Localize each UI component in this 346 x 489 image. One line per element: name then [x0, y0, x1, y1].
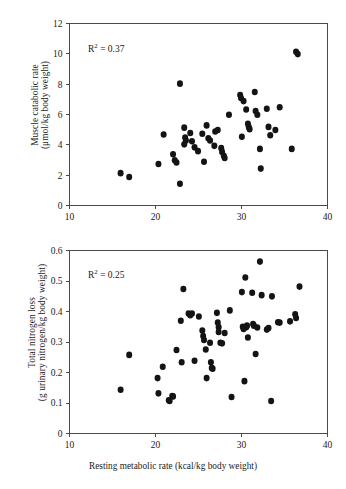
x-tick-label: 10 [65, 212, 75, 222]
data-point [277, 319, 283, 326]
plot-area-top: 02468101210203040 [0, 0, 346, 240]
data-point [214, 310, 220, 317]
data-point [181, 141, 187, 148]
y-tick-label: 0.1 [51, 398, 63, 408]
data-point [174, 347, 180, 354]
y-axis-label-top: Muscle catabolic rate (μmol/kg body weig… [30, 20, 50, 190]
data-point [174, 159, 180, 166]
data-point [180, 286, 186, 293]
panel-total-nitrogen-loss: 00.10.20.30.40.50.610203040 R2 = 0.25 To… [0, 240, 346, 489]
data-point [203, 346, 209, 353]
data-point [295, 51, 301, 58]
y-tick-label: 4 [58, 140, 63, 150]
x-tick-label: 10 [65, 440, 75, 450]
x-tick-label: 30 [237, 440, 247, 450]
data-point [229, 394, 235, 401]
y-tick-label: 2 [58, 171, 63, 181]
data-point [222, 330, 228, 337]
data-point [177, 80, 183, 87]
data-point [187, 130, 193, 137]
y-axis-label-top-line2: (μmol/kg body weight) [40, 20, 50, 190]
data-point [259, 292, 265, 299]
data-point [254, 111, 260, 118]
data-point [266, 325, 272, 332]
data-point [241, 98, 247, 105]
data-point [201, 337, 207, 344]
data-point [266, 124, 272, 131]
data-point [249, 289, 255, 296]
data-point [208, 359, 214, 366]
data-point [264, 105, 270, 112]
data-point [253, 351, 259, 358]
y-tick-label: 0.6 [51, 246, 63, 256]
data-point [210, 365, 216, 372]
y-tick-label: 0 [58, 429, 63, 439]
plot-area-bottom: 00.10.20.30.40.50.610203040 [0, 240, 346, 489]
data-point [192, 357, 198, 364]
data-point [155, 375, 161, 382]
data-point [118, 170, 124, 177]
data-point [247, 126, 253, 133]
data-point [244, 322, 250, 329]
y-tick-label: 0.4 [51, 307, 63, 317]
x-tick-label: 20 [151, 212, 161, 222]
data-point [257, 146, 263, 153]
data-point [155, 390, 161, 397]
data-point [287, 318, 293, 325]
data-point [216, 329, 222, 336]
data-point [118, 386, 124, 393]
data-point [207, 339, 213, 346]
figure-scatter-pair: 02468101210203040 R2 = 0.37 Muscle catab… [0, 0, 346, 489]
data-point [215, 127, 221, 134]
data-point [211, 143, 217, 150]
y-tick-label: 0 [58, 201, 63, 211]
data-point [269, 293, 275, 300]
y-tick-label: 0.2 [51, 368, 63, 378]
data-point [254, 324, 260, 331]
data-point [201, 158, 207, 165]
panel-muscle-catabolic-rate: 02468101210203040 R2 = 0.37 Muscle catab… [0, 0, 346, 240]
data-point [258, 165, 264, 172]
x-axis-label: Resting metabolic rate (kcal/kg body wei… [0, 461, 346, 471]
y-tick-label: 0.5 [51, 276, 63, 286]
data-point [227, 307, 233, 314]
data-point [277, 104, 283, 111]
data-point [189, 310, 195, 317]
data-point [160, 364, 166, 371]
r-squared-annotation-bottom: R2 = 0.25 [88, 270, 124, 280]
y-tick-label: 12 [53, 19, 63, 29]
data-point [204, 122, 210, 129]
y-axis-label-top-line1: Muscle catabolic rate [30, 20, 40, 190]
data-point [242, 274, 248, 281]
data-point [257, 258, 263, 265]
x-tick-label: 40 [323, 212, 333, 222]
x-tick-label: 40 [323, 440, 333, 450]
data-point [293, 315, 299, 322]
data-point [241, 378, 247, 385]
data-point [189, 138, 195, 145]
x-tick-label: 30 [237, 212, 247, 222]
data-point [289, 146, 295, 153]
data-point [268, 398, 274, 405]
data-point [199, 327, 205, 334]
data-point [272, 127, 278, 134]
data-point [199, 130, 205, 137]
y-tick-label: 8 [58, 80, 63, 90]
data-point [155, 161, 161, 168]
data-point [252, 89, 258, 96]
y-axis-label-bottom-line1: Total nitrogen loss [27, 245, 37, 420]
data-point [207, 137, 213, 144]
data-point [204, 375, 210, 382]
y-axis-label-bottom: Total nitrogen loss (g urinary nitrogen/… [27, 245, 47, 420]
data-point [219, 340, 225, 347]
x-tick-label: 20 [151, 440, 161, 450]
y-axis-label-bottom-line2: (g urinary nitrogen/kg body weight) [37, 245, 47, 420]
data-point [178, 317, 184, 324]
data-point [161, 131, 167, 138]
data-point [239, 133, 245, 140]
data-point [267, 132, 273, 139]
data-point [177, 180, 183, 187]
y-tick-label: 10 [53, 49, 63, 59]
data-point [170, 151, 176, 158]
data-point [243, 106, 249, 113]
